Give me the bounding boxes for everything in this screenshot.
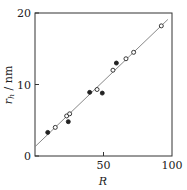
- plot-frame: [35, 13, 172, 156]
- open-data-point: [68, 112, 72, 116]
- y-axis-label-unit: / nm: [2, 65, 15, 94]
- x-axis-label: R: [98, 175, 107, 188]
- y-tick-label: 0: [24, 150, 31, 163]
- scatter-chart: 0102050100 R rh / nm: [0, 0, 187, 190]
- x-tick-label: 50: [97, 159, 111, 172]
- open-data-point: [124, 57, 128, 61]
- filled-data-point: [88, 90, 92, 94]
- x-tick-label: 100: [162, 159, 183, 172]
- y-tick-label: 10: [17, 79, 31, 92]
- open-data-point: [95, 88, 99, 92]
- y-axis-label: rh / nm: [2, 65, 16, 104]
- axis-ticks: 0102050100: [17, 7, 183, 172]
- svg-text:rh / nm: rh / nm: [2, 65, 16, 104]
- open-data-point: [53, 125, 57, 129]
- open-data-point: [132, 50, 136, 54]
- y-tick-label: 20: [17, 7, 31, 20]
- open-data-point: [111, 68, 115, 72]
- filled-data-point: [46, 130, 50, 134]
- filled-data-point: [114, 61, 118, 65]
- open-data-point: [159, 24, 163, 28]
- plot-border: [35, 13, 172, 156]
- filled-data-point: [100, 91, 104, 95]
- filled-data-point: [66, 120, 70, 124]
